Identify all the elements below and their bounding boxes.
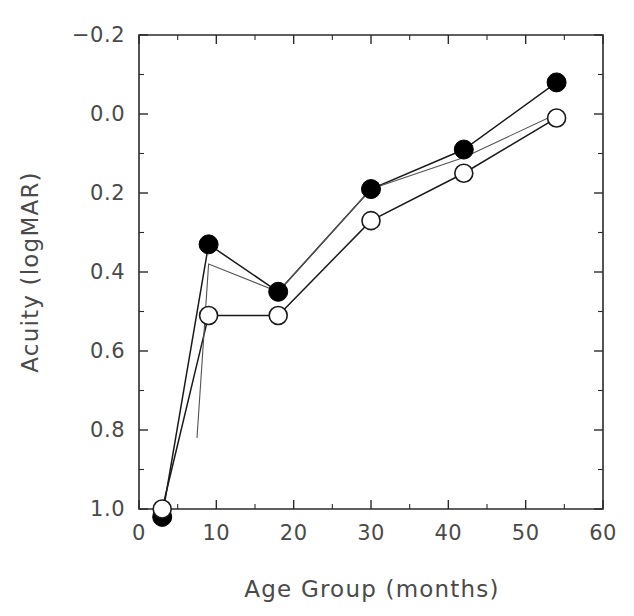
axis-titles: Age Group (months) Acuity (logMAR)	[17, 171, 500, 602]
y-tick-label: 0.8	[90, 418, 125, 442]
series-line-filled-circles	[162, 82, 556, 517]
x-tick-label: 10	[202, 521, 230, 545]
acuity-line-chart: −0.20.00.20.40.60.81.00102030405060 Age …	[0, 0, 634, 616]
y-tick-label: 0.2	[90, 181, 125, 205]
data-point-open-circles	[455, 164, 473, 182]
x-tick-label: 50	[512, 521, 540, 545]
data-point-open-circles	[269, 306, 287, 324]
y-tick-label: −0.2	[72, 23, 125, 47]
data-series	[162, 82, 556, 517]
y-tick-label: 0.6	[90, 339, 125, 363]
data-point-filled-circles	[269, 282, 288, 301]
x-tick-label: 60	[589, 521, 617, 545]
data-point-filled-circles	[199, 235, 218, 254]
y-axis-label: Acuity (logMAR)	[17, 171, 43, 372]
chart-figure: −0.20.00.20.40.60.81.00102030405060 Age …	[0, 0, 634, 616]
x-tick-label: 0	[132, 521, 146, 545]
axis-tick-labels: −0.20.00.20.40.60.81.00102030405060	[72, 23, 617, 545]
y-tick-label: 1.0	[90, 497, 125, 521]
series-line-open-circles	[162, 118, 556, 509]
data-point-open-circles	[200, 306, 218, 324]
data-point-filled-circles	[362, 180, 381, 199]
x-axis-label: Age Group (months)	[244, 576, 499, 602]
y-tick-label: 0.4	[90, 260, 125, 284]
y-tick-label: 0.0	[90, 102, 125, 126]
x-tick-label: 20	[280, 521, 308, 545]
data-point-filled-circles	[454, 140, 473, 159]
data-point-open-circles	[548, 109, 566, 127]
data-point-open-circles	[153, 500, 171, 518]
data-point-open-circles	[362, 212, 380, 230]
series-line-unmarked-thin	[197, 114, 557, 438]
x-tick-label: 40	[434, 521, 462, 545]
x-tick-label: 30	[357, 521, 385, 545]
data-point-filled-circles	[547, 73, 566, 92]
data-markers	[153, 73, 566, 527]
